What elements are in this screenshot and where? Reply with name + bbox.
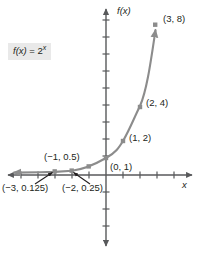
point-label-neg1: (−1, 0.5) <box>44 152 80 162</box>
equation-label: f(x) = 2x <box>8 43 51 60</box>
point-label-1: (1, 2) <box>129 133 151 143</box>
point-label-3: (3, 8) <box>163 14 185 24</box>
marker-1 <box>121 139 125 143</box>
marker-2 <box>138 105 142 109</box>
marker-neg2 <box>70 168 74 172</box>
x-axis-label: x <box>182 180 187 190</box>
marker-0 <box>104 156 108 160</box>
plot-canvas <box>0 0 201 254</box>
y-axis <box>103 9 110 246</box>
point-label-neg2: (−2, 0.25) <box>62 183 103 193</box>
y-axis-label: f(x) <box>117 6 131 16</box>
exponential-function-graph: f(x) = 2x f(x) x (−3, 0.125) (−2, 0.25) … <box>0 0 201 254</box>
equation-equals: = <box>27 45 38 56</box>
point-label-0: (0, 1) <box>110 162 132 172</box>
marker-3 <box>153 23 157 27</box>
marker-neg3 <box>53 169 57 173</box>
point-label-2: (2, 4) <box>146 98 168 108</box>
point-label-neg3: (−3, 0.125) <box>2 183 48 193</box>
equation-exponent: x <box>43 44 47 51</box>
marker-neg1 <box>87 164 91 168</box>
equation-function-name: f(x) <box>13 45 27 56</box>
